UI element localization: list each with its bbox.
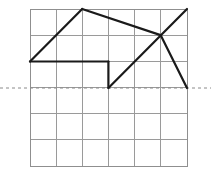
diagram-canvas (0, 0, 211, 171)
figure-container (0, 0, 211, 171)
canvas-background (0, 0, 211, 171)
